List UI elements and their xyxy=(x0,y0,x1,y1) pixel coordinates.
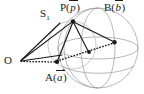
point-p-label: P(p) xyxy=(60,2,80,13)
edge-O-A-dotted xyxy=(21,62,56,63)
vertex-B-dot xyxy=(112,40,116,44)
point-a-prefix: A( xyxy=(45,71,57,83)
figure-canvas xyxy=(0,0,144,94)
vector-p-letter: p xyxy=(70,1,76,13)
vector-b-symbol: b xyxy=(115,2,122,13)
vector-p-symbol: p xyxy=(70,2,77,13)
point-a-label: A(a) xyxy=(45,72,67,83)
point-b-prefix: B( xyxy=(104,1,115,13)
vector-arrow-icon xyxy=(56,70,65,71)
sphere-label-subscript: 1 xyxy=(46,14,50,22)
point-p-suffix: ) xyxy=(76,1,80,13)
sphere-lower-latitude-arc xyxy=(62,66,134,73)
vertex-M-dot xyxy=(87,50,91,54)
point-a-suffix: ) xyxy=(63,71,67,83)
origin-label: O xyxy=(4,55,12,66)
vector-b-letter: b xyxy=(116,1,122,13)
vertex-P-dot xyxy=(71,19,75,23)
geometry-figure: S1 P(p) B(b) O A(a) xyxy=(0,0,144,94)
vector-a-symbol: a xyxy=(57,72,64,83)
sphere-label: S1 xyxy=(40,8,50,22)
vertex-A-dot xyxy=(55,60,59,64)
point-b-suffix: ) xyxy=(122,1,126,13)
point-p-prefix: P( xyxy=(60,1,70,13)
edge-O-Sone xyxy=(21,23,60,61)
vector-a-letter: a xyxy=(57,71,63,83)
point-b-label: B(b) xyxy=(104,2,125,13)
origin-label-letter: O xyxy=(4,54,12,66)
edge-P-B xyxy=(74,22,115,42)
